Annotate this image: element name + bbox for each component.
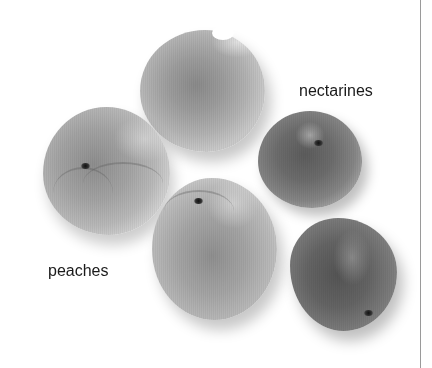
stem-icon bbox=[194, 198, 203, 204]
peach-left bbox=[43, 107, 170, 235]
peach-bottom bbox=[152, 178, 277, 320]
peach-crease bbox=[53, 167, 113, 219]
stem-icon bbox=[314, 140, 323, 146]
vertical-divider bbox=[420, 0, 421, 368]
nectarine-upper bbox=[258, 111, 362, 208]
peach-crease bbox=[164, 190, 234, 232]
nectarines-label: nectarines bbox=[299, 83, 373, 99]
fruit-illustration: nectarines peaches bbox=[0, 0, 432, 368]
stem-icon bbox=[364, 310, 373, 316]
skin-texture bbox=[258, 111, 362, 208]
peaches-label: peaches bbox=[48, 263, 109, 279]
peach-cleft bbox=[212, 26, 234, 40]
nectarine-lower bbox=[290, 218, 397, 331]
peach-top bbox=[140, 30, 265, 152]
skin-texture bbox=[140, 30, 265, 152]
skin-texture bbox=[290, 218, 397, 331]
stem-icon bbox=[81, 163, 90, 169]
